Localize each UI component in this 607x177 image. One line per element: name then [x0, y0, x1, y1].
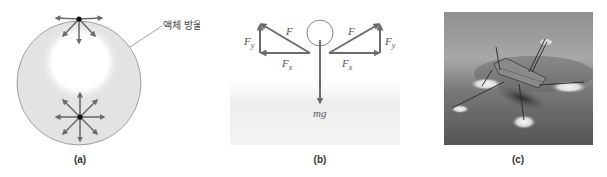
annotation-leader-line [130, 26, 162, 47]
caption-a: (a) [74, 154, 86, 165]
label-fy-left: Fy [243, 35, 255, 50]
label-f-right: F [347, 25, 355, 37]
caption-c: (c) [512, 154, 524, 165]
water-strider-photo [444, 12, 593, 145]
interior-molecule-dot [77, 114, 82, 119]
label-fx-right: Fx [341, 57, 353, 72]
label-fy-right: Fy [384, 35, 396, 50]
surface-molecule-dot [76, 16, 81, 21]
water-strider-image [444, 12, 593, 145]
panel-a: 액체 방울 (a) [0, 0, 200, 177]
liquid-drop-diagram: 액체 방울 [0, 0, 200, 177]
force-diagram: F F Fy Fy Fx Fx mg [230, 0, 400, 177]
liquid-drop-label: 액체 방울 [163, 20, 200, 31]
caption-b: (b) [314, 154, 327, 165]
label-f-left: F [285, 25, 293, 37]
label-fx-left: Fx [281, 57, 293, 72]
panel-b: F F Fy Fy Fx Fx mg (b) [230, 0, 400, 177]
label-mg: mg [313, 107, 327, 119]
